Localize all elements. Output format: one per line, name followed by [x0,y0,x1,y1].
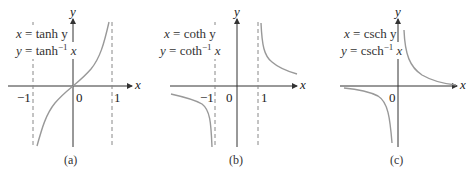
panel-a-eq1-lhs: x [16,26,22,41]
panel-a-tick-1: 1 [114,91,121,105]
panel-b-equation-1: x = coth y [164,25,216,42]
panel-c-equation-2: y = csch−1 x [341,42,402,59]
panel-b-eq1-rhs: coth y [184,26,216,41]
panel-b-eq2-sup: −1 [202,42,212,52]
panel-c-equation-1: x = csch y [344,25,396,42]
panel-c-y-label: y [395,5,401,19]
panel-b-eq1-lhs: x [164,26,170,41]
panel-a-equation-1: x = tanh y [16,25,68,42]
panel-a-eq2-arg: x [71,43,77,58]
panel-b-eq2-fn: coth [180,43,202,58]
panel-c-eq1-rhs: csch y [364,26,397,41]
panel-a-eq1-rhs: tanh y [36,26,68,41]
panel-b-x-label: x [300,78,306,92]
panel-a-tick-0: 0 [76,91,83,105]
panel-c-eq2-sup: −1 [384,42,394,52]
panel-a-eq2-lhs: y [16,43,22,58]
panel-c-arccsch-left-branch [344,88,392,143]
panel-b-caption: (b) [229,153,243,168]
panel-c-tick-0: 0 [389,91,396,105]
panel-b-tick-neg1: −1 [200,91,214,105]
panel-a-eq2-fn: tanh [36,43,58,58]
panel-b-tick-0: 0 [226,91,233,105]
panel-a-caption: (a) [64,153,77,168]
panel-a-equation-2: y = tanh−1 x [16,42,77,59]
panel-a-y-label: y [70,5,76,19]
panel-c-eq2-lhs: y [341,43,347,58]
panel-a-tick-neg1: −1 [17,91,31,105]
panel-c-x-label: x [460,78,466,92]
panel-a-eq2-sup: −1 [58,42,68,52]
panel-b-eq2-arg: x [215,43,221,58]
panel-c-arccsch-right-branch [404,30,456,85]
panel-c-eq2-arg: x [397,43,403,58]
panel-c-caption: (c) [390,153,403,168]
panel-c-eq1-lhs: x [344,26,350,41]
panel-b-y-label: y [234,5,240,19]
panel-b-arccoth-right-branch [261,23,297,74]
panel-b-eq2-lhs: y [160,43,166,58]
panel-c-eq2-fn: csch [361,43,384,58]
panel-a-x-label: x [135,78,141,92]
panel-b-tick-1: 1 [261,91,268,105]
panel-b-equation-2: y = coth−1 x [160,42,221,59]
figure-canvas [0,0,470,175]
